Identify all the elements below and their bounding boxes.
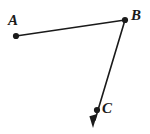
geometry-figure: A B C [0,0,150,134]
figure-canvas [0,0,150,134]
point-a-dot [13,33,19,39]
point-c-dot [94,107,100,113]
point-a-label: A [8,13,18,28]
point-b-dot [122,17,128,23]
point-c-label: C [102,101,112,116]
point-b-label: B [131,8,141,23]
